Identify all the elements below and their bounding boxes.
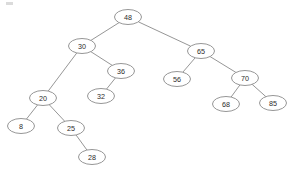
tree-edge-48-to-30 — [91, 23, 119, 41]
tree-node-65[interactable]: 65 — [188, 44, 215, 59]
tree-edge-65-to-56 — [183, 58, 195, 72]
tree-node-68[interactable]: 68 — [213, 97, 240, 112]
tree-node-85[interactable]: 85 — [260, 96, 287, 111]
node-label-48: 48 — [124, 13, 132, 22]
tree-edge-25-to-28 — [76, 135, 87, 150]
binary-search-tree-graphic: 4830652036567082532688528 — [0, 0, 293, 176]
tree-node-30[interactable]: 30 — [69, 39, 96, 54]
tree-node-25[interactable]: 25 — [58, 121, 85, 136]
node-label-28: 28 — [88, 153, 96, 162]
tree-edge-20-to-25 — [49, 105, 65, 122]
node-label-70: 70 — [241, 74, 249, 83]
node-label-85: 85 — [269, 99, 277, 108]
tree-edge-30-to-20 — [48, 53, 77, 91]
node-label-56: 56 — [173, 75, 181, 84]
tree-node-70[interactable]: 70 — [232, 71, 259, 86]
tree-node-36[interactable]: 36 — [108, 64, 135, 79]
node-label-30: 30 — [78, 42, 86, 51]
node-label-68: 68 — [222, 100, 230, 109]
tree-node-56[interactable]: 56 — [164, 72, 191, 87]
node-label-8: 8 — [19, 122, 23, 131]
node-label-20: 20 — [39, 94, 47, 103]
node-layer: 4830652036567082532688528 — [8, 10, 287, 165]
node-label-65: 65 — [197, 47, 205, 56]
tree-node-48[interactable]: 48 — [115, 10, 142, 25]
node-label-25: 25 — [67, 124, 75, 133]
node-label-36: 36 — [117, 67, 125, 76]
tree-edge-30-to-36 — [91, 52, 112, 66]
tree-edge-48-to-65 — [138, 22, 190, 46]
tree-edge-70-to-85 — [252, 84, 266, 96]
tree-node-8[interactable]: 8 — [8, 119, 35, 134]
tree-edge-65-to-70 — [210, 57, 236, 73]
tree-node-28[interactable]: 28 — [79, 150, 106, 165]
node-label-32: 32 — [97, 92, 105, 101]
tree-edge-20-to-8 — [26, 105, 37, 119]
tree-node-20[interactable]: 20 — [30, 91, 57, 106]
tree-node-32[interactable]: 32 — [88, 89, 115, 104]
tree-edge-36-to-32 — [106, 78, 115, 89]
bst-diagram-canvas: 4830652036567082532688528 — [0, 0, 293, 176]
tree-edge-70-to-68 — [231, 85, 240, 97]
